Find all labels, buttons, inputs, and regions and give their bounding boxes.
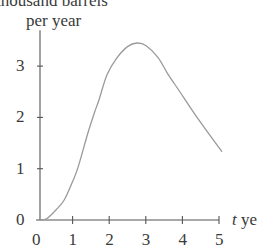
x-tick-label: 5 [215,231,224,248]
x-axis-variable: t [232,210,237,229]
x-axis-label: t ye [232,211,257,228]
x-tick-label: 2 [105,231,114,248]
y-tick-label: 2 [16,108,25,125]
y-axis-label-line2: per year [26,12,81,29]
x-tick-label: 1 [69,231,78,248]
x-tick-label: 0 [32,231,41,248]
y-tick-label: 1 [16,160,25,177]
axes [36,30,219,224]
data-line [40,43,222,220]
chart-canvas [0,0,259,251]
y-tick-label: 3 [16,57,25,74]
x-axis-unit: ye [241,210,257,229]
y-tick-label: 0 [16,211,25,228]
x-tick-label: 3 [142,231,151,248]
y-axis-label-line1: thousand barrels [0,0,108,9]
x-tick-label: 4 [178,231,187,248]
